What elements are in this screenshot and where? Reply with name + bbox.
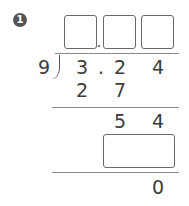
quotient-tenths-box[interactable] bbox=[103, 15, 136, 49]
step1-remainder-digit-1: 5 bbox=[112, 111, 128, 131]
quotient-decimal-point bbox=[98, 45, 100, 47]
problem-number-badge: 1 bbox=[13, 13, 27, 27]
subtraction-line-1 bbox=[52, 107, 179, 108]
subtraction-line-2 bbox=[52, 172, 179, 173]
dividend-digit-ones: 3 bbox=[74, 57, 90, 77]
dividend-decimal-point: . bbox=[93, 57, 109, 77]
final-remainder: 0 bbox=[150, 177, 166, 197]
divisor: 9 bbox=[36, 57, 52, 77]
quotient-ones-box[interactable] bbox=[64, 15, 97, 49]
step2-product-box[interactable] bbox=[103, 134, 175, 168]
dividend-digit-hundredths: 4 bbox=[150, 57, 166, 77]
quotient-hundredths-box[interactable] bbox=[141, 15, 174, 49]
division-bracket bbox=[52, 55, 60, 79]
step1-product-digit-1: 2 bbox=[74, 80, 90, 100]
dividend-digit-tenths: 2 bbox=[112, 57, 128, 77]
division-bar bbox=[55, 53, 179, 54]
step1-product-digit-2: 7 bbox=[112, 80, 128, 100]
step1-remainder-digit-2: 4 bbox=[150, 111, 166, 131]
